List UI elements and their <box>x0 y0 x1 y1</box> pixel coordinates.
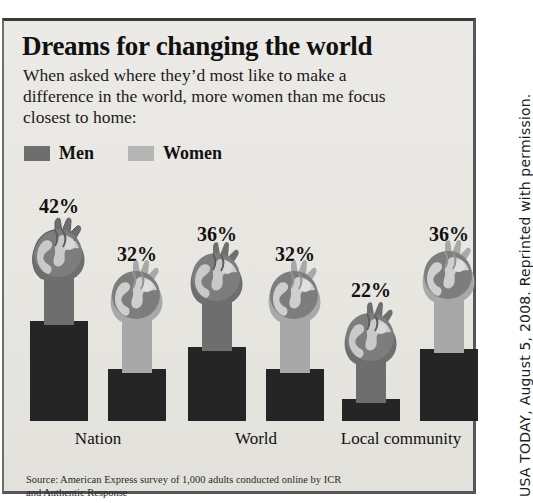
bar-group-nation: 42% <box>18 171 178 421</box>
category-axis: Nation World Local community <box>4 425 478 469</box>
bar-group-local-community: 22% <box>330 171 490 421</box>
bar-women-world: 32% <box>258 245 332 421</box>
copyright-credit: USA TODAY, August 5, 2008. Reprinted wit… <box>498 0 522 503</box>
category-label-nation: Nation <box>18 429 178 448</box>
bar-block-women-local-community <box>420 349 478 421</box>
bar-men-local-community: 22% <box>334 281 408 421</box>
hand-globe-icon-women-nation <box>100 255 174 327</box>
legend-swatch-men <box>24 146 50 161</box>
bar-block-women-world <box>266 369 324 421</box>
category-label-local-community: Local community <box>336 429 466 448</box>
chart-plot-area: 42% <box>4 171 478 421</box>
hand-globe-icon-women-local-community <box>412 235 486 307</box>
bar-men-world: 36% <box>180 225 254 421</box>
page-title: Dreams for changing the world <box>22 31 372 62</box>
bar-women-local-community: 36% <box>412 225 486 421</box>
legend-label-women: Women <box>163 143 222 164</box>
infographic-background: Dreams for changing the world When asked… <box>4 21 473 491</box>
bar-group-world: 36% <box>176 171 336 421</box>
copyright-credit-text: USA TODAY, August 5, 2008. Reprinted wit… <box>517 94 533 497</box>
hand-globe-icon-women-world <box>258 255 332 327</box>
bar-men-nation: 42% <box>22 197 96 421</box>
hand-globe-icon-men-nation <box>22 213 96 285</box>
infographic-frame: Dreams for changing the world When asked… <box>2 18 476 494</box>
chart-legend: Men Women <box>24 143 252 165</box>
bar-block-men-world <box>188 347 246 421</box>
legend-item-women: Women <box>128 143 222 164</box>
category-label-world: World <box>176 429 336 448</box>
hand-globe-icon-men-world <box>180 237 254 309</box>
page-top-bleed <box>0 0 478 16</box>
subtitle: When asked where they’d most like to mak… <box>23 65 418 128</box>
source-note: Source: American Express survey of 1,000… <box>26 473 356 499</box>
hand-globe-icon-men-local-community <box>334 297 408 369</box>
legend-swatch-women <box>128 146 154 161</box>
legend-item-men: Men <box>24 143 94 164</box>
bar-block-women-nation <box>108 369 166 421</box>
legend-label-men: Men <box>59 143 94 164</box>
bar-block-men-nation <box>30 321 88 421</box>
bar-women-nation: 32% <box>100 245 174 421</box>
